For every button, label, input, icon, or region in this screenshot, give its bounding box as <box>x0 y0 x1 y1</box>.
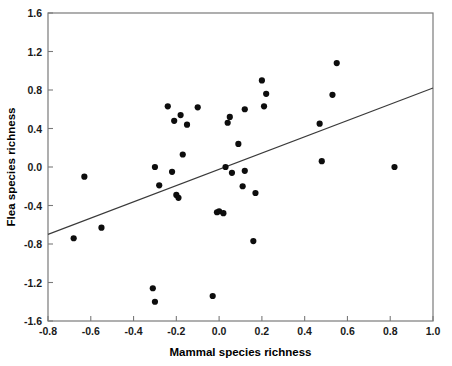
regression-line <box>48 88 433 234</box>
y-axis-tick-label: -0.8 <box>24 238 42 250</box>
x-axis-tick-label: 1.0 <box>426 325 441 337</box>
x-axis-tick-label: -0.2 <box>167 325 185 337</box>
scatter-plot-figure: -0.8-0.6-0.4-0.20.00.20.40.60.81.01.61.2… <box>0 0 452 366</box>
data-point <box>225 120 231 126</box>
x-axis-tick-label: 0.6 <box>340 325 355 337</box>
data-point <box>222 164 228 170</box>
y-axis-tick-label: 0.4 <box>27 123 42 135</box>
data-point <box>319 158 325 164</box>
data-point <box>240 183 246 189</box>
data-point <box>220 210 226 216</box>
y-axis-title: Flea species richness <box>5 108 17 227</box>
x-axis-tick-label: 0.2 <box>255 325 270 337</box>
data-point <box>317 121 323 127</box>
data-point <box>150 285 156 291</box>
y-axis-tick-label: -0.4 <box>24 200 42 212</box>
data-point <box>156 182 162 188</box>
data-point <box>195 104 201 110</box>
data-point <box>81 174 87 180</box>
data-point <box>169 169 175 175</box>
data-point <box>261 103 267 109</box>
x-axis-tick-label: 0.0 <box>212 325 227 337</box>
data-point <box>210 293 216 299</box>
y-axis-tick-label: 1.6 <box>27 7 42 19</box>
data-point <box>152 299 158 305</box>
data-point <box>180 151 186 157</box>
data-point <box>229 170 235 176</box>
data-point <box>263 91 269 97</box>
data-point <box>334 60 340 66</box>
data-point <box>391 164 397 170</box>
x-axis-tick-label: -0.4 <box>125 325 143 337</box>
y-axis-tick-label: 0.0 <box>27 161 42 173</box>
data-point-group <box>71 60 398 305</box>
data-point <box>250 238 256 244</box>
data-point <box>242 168 248 174</box>
data-point <box>175 195 181 201</box>
x-axis-tick-label: 0.8 <box>383 325 398 337</box>
plot-frame <box>48 13 433 321</box>
y-axis-tick-label: 1.2 <box>27 46 42 58</box>
data-point <box>71 235 77 241</box>
x-axis-title: Mammal species richness <box>170 346 312 358</box>
data-point <box>252 190 258 196</box>
data-point <box>227 114 233 120</box>
y-axis-tick-label: -1.6 <box>24 315 42 327</box>
x-axis-tick-label: 0.4 <box>297 325 312 337</box>
data-point <box>259 77 265 83</box>
data-point <box>329 92 335 98</box>
chart-canvas: -0.8-0.6-0.4-0.20.00.20.40.60.81.01.61.2… <box>0 0 452 366</box>
y-axis-tick-label: 0.8 <box>27 84 42 96</box>
data-point <box>242 106 248 112</box>
x-axis-tick-label: -0.6 <box>82 325 100 337</box>
y-axis-tick-label: -1.2 <box>24 277 42 289</box>
data-point <box>98 225 104 231</box>
data-point <box>152 164 158 170</box>
data-point <box>165 103 171 109</box>
data-point <box>235 141 241 147</box>
data-point <box>184 122 190 128</box>
data-point <box>171 118 177 124</box>
data-point <box>178 112 184 118</box>
